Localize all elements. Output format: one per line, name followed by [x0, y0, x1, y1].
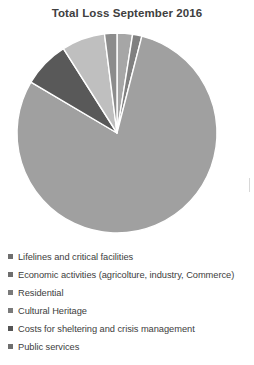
pie-plot-area [0, 22, 254, 242]
legend-item-label: Residential [18, 284, 63, 302]
legend-item-label: Cultural Heritage [18, 302, 87, 320]
legend-item-label: Economic activities (agricolture, indust… [18, 266, 234, 284]
page-edge-mark [249, 178, 250, 192]
legend-item-label: Lifelines and critical facilities [18, 248, 133, 266]
legend-item-residential[interactable]: Residential [0, 284, 254, 302]
pie-slice-group [17, 33, 217, 233]
legend-item-label: Costs for sheltering and crisis manageme… [18, 320, 195, 338]
legend-item-public-services[interactable]: Public services [0, 338, 254, 356]
legend-item-cultural-heritage[interactable]: Cultural Heritage [0, 302, 254, 320]
pie-svg [0, 22, 254, 242]
chart-legend: Lifelines and critical facilities Econom… [0, 248, 254, 356]
legend-item-costs-for-sheltering-and-crisis-management[interactable]: Costs for sheltering and crisis manageme… [0, 320, 254, 338]
legend-swatch-icon [8, 308, 13, 313]
legend-item-lifelines-and-critical-facilities[interactable]: Lifelines and critical facilities [0, 248, 254, 266]
legend-item-economic-activities[interactable]: Economic activities (agricolture, indust… [0, 266, 254, 284]
legend-swatch-icon [8, 326, 13, 331]
pie-chart-figure: Total Loss September 2016 Lifelines and … [0, 0, 254, 365]
legend-swatch-icon [8, 344, 13, 349]
legend-swatch-icon [8, 272, 13, 277]
chart-title: Total Loss September 2016 [0, 0, 254, 20]
legend-swatch-icon [8, 254, 13, 259]
legend-item-label: Public services [18, 338, 79, 356]
legend-swatch-icon [8, 290, 13, 295]
